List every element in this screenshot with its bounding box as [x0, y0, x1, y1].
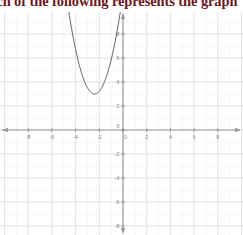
major-gridlines — [0, 12, 243, 235]
chart-svg: -8-6-4-224680 86420-2-4-6-8 — [0, 12, 243, 235]
x-tick-label: -4 — [73, 134, 78, 140]
y-tick-label: 2 — [117, 103, 120, 109]
y-tick-label: 4 — [117, 79, 120, 85]
question-text: Which of the following represents the gr… — [0, 0, 237, 10]
y-tick-label: -2 — [115, 151, 120, 157]
minor-gridlines — [0, 12, 243, 235]
question-header: Which of the following represents the gr… — [0, 0, 243, 12]
coordinate-plane-chart: -8-6-4-224680 86420-2-4-6-8 — [0, 12, 243, 235]
x-tick-label: -2 — [97, 134, 102, 140]
x-tick-label: 4 — [169, 134, 172, 140]
graph-question-screenshot: Which of the following represents the gr… — [0, 0, 243, 235]
x-tick-label: -8 — [26, 134, 31, 140]
y-tick-label: -8 — [115, 223, 120, 229]
x-tick-label: 8 — [216, 134, 219, 140]
x-tick-label: 2 — [145, 134, 148, 140]
x-tick-label: 6 — [193, 134, 196, 140]
x-tick-label: -6 — [50, 134, 55, 140]
y-tick-label: -4 — [115, 175, 120, 181]
x-tick-label-zero: 0 — [124, 134, 127, 140]
y-tick-label-zero: 0 — [117, 123, 120, 129]
y-tick-label: -6 — [115, 199, 120, 205]
y-tick-label: 6 — [117, 55, 120, 61]
